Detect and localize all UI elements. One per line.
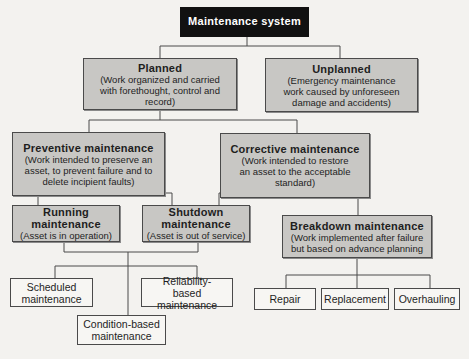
corrective-node: Corrective maintenance (Work intended to… xyxy=(220,133,370,198)
running-title: Running maintenance xyxy=(13,206,119,230)
preventive-title: Preventive maintenance xyxy=(23,142,153,154)
shutdown-node: Shutdown maintenance (Asset is out of se… xyxy=(142,205,250,242)
unplanned-title: Unplanned xyxy=(312,63,371,75)
unplanned-desc: (Emergency maintenance work caused by un… xyxy=(266,75,417,108)
shutdown-desc: (Asset is out of service) xyxy=(147,230,246,241)
replacement-title: Replacement xyxy=(324,293,386,305)
breakdown-node: Breakdown maintenance (Work implemented … xyxy=(282,215,432,258)
reliability-node: Reliability-based maintenance xyxy=(141,278,233,307)
breakdown-title: Breakdown maintenance xyxy=(290,220,424,232)
planned-node: Planned (Work organized and carried with… xyxy=(83,58,237,110)
shutdown-title: Shutdown maintenance xyxy=(143,206,249,230)
condition-node: Condition-based maintenance xyxy=(77,315,166,345)
repair-title: Repair xyxy=(270,293,301,305)
preventive-desc: (Work intended to preserve an asset, to … xyxy=(13,154,164,187)
root-node: Maintenance system xyxy=(180,7,309,37)
scheduled-node: Scheduled maintenance xyxy=(10,278,93,307)
preventive-node: Preventive maintenance (Work intended to… xyxy=(12,132,165,196)
replacement-node: Replacement xyxy=(321,288,389,310)
planned-title: Planned xyxy=(138,62,182,74)
corrective-title: Corrective maintenance xyxy=(230,143,359,155)
corrective-desc: (Work intended to restore an asset to th… xyxy=(221,155,369,188)
running-node: Running maintenance (Asset is in operati… xyxy=(12,205,120,242)
repair-node: Repair xyxy=(254,288,316,310)
scheduled-title: Scheduled maintenance xyxy=(11,281,92,305)
unplanned-node: Unplanned (Emergency maintenance work ca… xyxy=(265,58,418,112)
overhauling-title: Overhauling xyxy=(399,293,456,305)
running-desc: (Asset is in operation) xyxy=(20,230,112,241)
condition-title: Condition-based maintenance xyxy=(78,318,165,342)
overhauling-node: Overhauling xyxy=(394,288,460,310)
planned-desc: (Work organized and carried with foretho… xyxy=(84,74,236,107)
root-title: Maintenance system xyxy=(188,16,301,28)
breakdown-desc: (Work implemented after failure but base… xyxy=(283,232,431,254)
reliability-title: Reliability-based maintenance xyxy=(142,275,232,311)
